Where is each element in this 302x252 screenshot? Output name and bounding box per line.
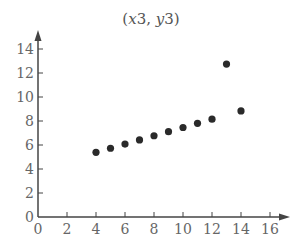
data-point <box>107 145 114 152</box>
y-tick-label: 2 <box>25 185 34 201</box>
data-point <box>121 140 128 147</box>
scatter-chart: (x3, y3) 024681012141602468101214 <box>0 0 302 252</box>
data-point <box>92 149 99 156</box>
x-axis-arrow-icon <box>279 214 290 221</box>
data-point <box>150 132 157 139</box>
x-tick-label: 0 <box>34 221 43 237</box>
x-tick-label: 4 <box>92 221 101 237</box>
data-point <box>237 107 244 114</box>
y-tick-label: 10 <box>16 89 34 105</box>
data-point <box>179 124 186 131</box>
y-tick-label: 14 <box>16 41 34 57</box>
y-tick-label: 6 <box>25 137 34 153</box>
y-tick-label: 8 <box>25 113 34 129</box>
y-tick-label: 12 <box>16 65 34 81</box>
x-tick-label: 8 <box>150 221 159 237</box>
x-tick-label: 16 <box>261 221 279 237</box>
x-tick-label: 2 <box>63 221 72 237</box>
x-tick-label: 14 <box>232 221 250 237</box>
data-point <box>208 116 215 123</box>
data-point <box>223 61 230 68</box>
data-point <box>165 128 172 135</box>
x-tick-label: 6 <box>121 221 130 237</box>
data-point <box>136 136 143 143</box>
y-tick-label: 4 <box>25 161 34 177</box>
x-tick-label: 10 <box>174 221 192 237</box>
plot-area: 024681012141602468101214 <box>0 0 302 252</box>
data-point <box>194 120 201 127</box>
y-tick-label: 0 <box>25 209 34 225</box>
x-tick-label: 12 <box>203 221 221 237</box>
y-axis-arrow-icon <box>35 30 42 41</box>
